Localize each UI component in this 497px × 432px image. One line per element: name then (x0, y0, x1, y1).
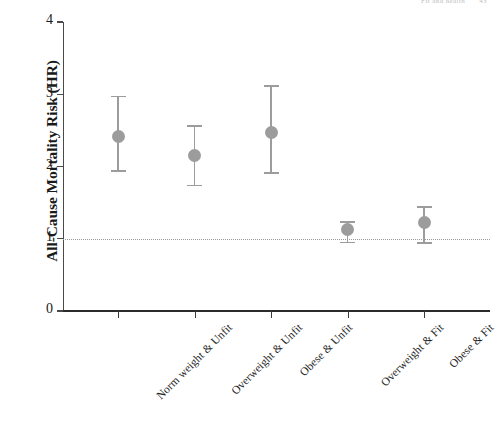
y-tick-label-4: 4 (46, 12, 53, 28)
error-bar-cap-lower-3 (340, 242, 355, 244)
marker-3 (341, 223, 354, 236)
y-tick-label-0: 0 (46, 301, 53, 317)
x-label-1: Overweight & Unfit (228, 321, 304, 397)
x-tick-3 (348, 311, 349, 318)
error-bar-cap-lower-2 (264, 172, 279, 174)
x-tick-1 (195, 311, 196, 318)
error-bar-cap-upper-1 (187, 125, 202, 127)
error-bar-cap-upper-0 (111, 96, 126, 98)
y-tick-0: 0 (57, 310, 63, 311)
x-tick-0 (118, 311, 119, 318)
x-tick-2 (271, 311, 272, 318)
y-axis-line (63, 22, 64, 311)
error-bar-cap-upper-4 (417, 206, 432, 208)
marker-4 (418, 216, 431, 229)
x-label-4: Obese & Fit (447, 321, 496, 370)
marker-2 (265, 126, 278, 139)
y-tick-3: 3 (57, 94, 63, 95)
x-label-2: Obese & Unfit (297, 321, 354, 378)
x-label-3: Overweight & Fit (378, 321, 445, 388)
y-tick-2: 2 (57, 166, 63, 167)
y-tick-4: 4 (57, 21, 63, 22)
x-label-0: Norm weight & Unfit (154, 321, 235, 402)
y-tick-label-1: 1 (46, 229, 53, 245)
plot-area: 01234 (63, 22, 490, 311)
error-bar-cap-lower-0 (111, 170, 126, 172)
x-axis-line (63, 310, 490, 312)
figure-chart: All-Cause Mortality Risk (HR) 01234 Norm… (0, 0, 497, 432)
marker-0 (112, 130, 125, 143)
error-bar-cap-upper-2 (264, 85, 279, 87)
marker-1 (188, 149, 201, 162)
error-bar-cap-lower-1 (187, 185, 202, 187)
x-tick-4 (424, 311, 425, 318)
reference-line-hr-1 (63, 239, 490, 240)
y-tick-label-3: 3 (46, 85, 53, 101)
y-tick-label-2: 2 (46, 157, 53, 173)
error-bar-cap-lower-4 (417, 242, 432, 244)
